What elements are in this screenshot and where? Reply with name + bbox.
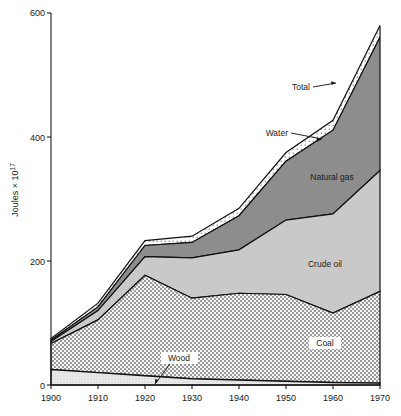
x-tick-labels: 1900 1910 1920 1930 1940 1950 1960 1970: [41, 393, 390, 403]
label-total: Total: [292, 82, 310, 92]
y-tick-labels: 600 400 200 0: [30, 8, 45, 391]
y-tick-label-600: 600: [30, 8, 45, 18]
y-axis-title-exponent: 17: [9, 163, 16, 171]
energy-consumption-area-chart: 600 400 200 0 1900 1910 1920 1930 1940 1…: [0, 0, 401, 416]
label-water: Water: [266, 128, 289, 138]
x-tick-label-1940: 1940: [229, 393, 249, 403]
y-axis-ticks: [47, 13, 51, 385]
series-areas: [51, 25, 380, 385]
x-tick-label-1900: 1900: [41, 393, 61, 403]
x-tick-label-1930: 1930: [182, 393, 202, 403]
y-tick-label-200: 200: [30, 257, 45, 267]
y-axis-title-text: Joules × 10: [10, 170, 20, 216]
x-tick-label-1960: 1960: [323, 393, 343, 403]
y-axis-title: Joules × 1017: [9, 163, 20, 217]
x-tick-label-1950: 1950: [276, 393, 296, 403]
label-crude-oil: Crude oil: [308, 259, 342, 269]
y-tick-label-400: 400: [30, 133, 45, 143]
label-coal: Coal: [316, 338, 334, 348]
chart-canvas: 600 400 200 0 1900 1910 1920 1930 1940 1…: [0, 0, 401, 416]
y-tick-label-0: 0: [40, 381, 45, 391]
x-tick-label-1920: 1920: [135, 393, 155, 403]
label-wood: Wood: [168, 353, 190, 363]
x-tick-label-1970: 1970: [370, 393, 390, 403]
svg-text:Joules × 1017: Joules × 1017: [9, 163, 20, 217]
label-natural-gas: Natural gas: [310, 172, 353, 182]
x-tick-label-1910: 1910: [88, 393, 108, 403]
leader-arrow-total: [331, 81, 336, 85]
